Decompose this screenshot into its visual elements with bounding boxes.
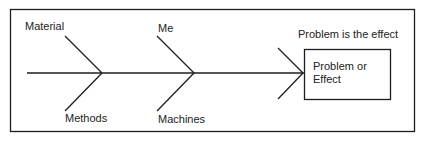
cause-label-material: Material (25, 20, 64, 33)
bone-methods (65, 73, 102, 111)
arrowhead-lower (278, 73, 303, 99)
bone-me (157, 36, 194, 73)
bone-machines (157, 73, 194, 111)
effect-box-line-1: Problem or (313, 60, 367, 73)
effect-caption: Problem is the effect (298, 28, 398, 41)
fishbone-diagram: Material Methods Me Machines Problem is … (0, 0, 428, 141)
effect-box-line-2: Effect (313, 73, 341, 86)
cause-label-me: Me (158, 22, 173, 35)
bone-material (65, 36, 102, 73)
cause-label-machines: Machines (158, 113, 205, 126)
cause-label-methods: Methods (65, 112, 107, 125)
arrowhead-upper (278, 48, 303, 73)
